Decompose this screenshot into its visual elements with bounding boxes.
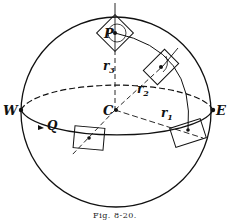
point-lower-tip [87,136,91,140]
label-w: W [3,103,19,118]
sphere-diagram: W E C P Q r3 r2 r1 Fig. 8-20. [0,0,230,222]
figure-caption: Fig. 8-20. [93,211,137,220]
label-r2: r2 [137,82,149,98]
label-e: E [215,103,227,118]
point-w [19,108,23,112]
point-e [211,108,215,112]
radius-r1 [115,110,203,138]
equator-back [21,85,213,110]
label-p: P [103,26,115,41]
label-c: C [103,103,114,118]
meridian-arc [115,33,189,130]
label-q: Q [47,119,58,133]
arrow-q-icon [38,125,44,130]
point-r1-tip [186,128,190,132]
point-r2-tip [159,65,163,69]
point-c [114,108,118,112]
label-r1: r1 [161,106,173,122]
label-r3: r3 [103,59,115,75]
